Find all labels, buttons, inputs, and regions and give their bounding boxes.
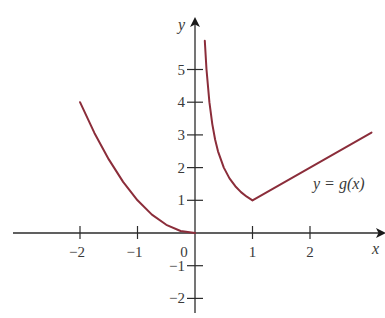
y-tick-label: −1 — [169, 258, 185, 274]
y-tick-label: 3 — [178, 127, 186, 143]
y-tick-label: −2 — [169, 290, 185, 306]
y-ticks: −2−112345 — [169, 62, 203, 307]
x-tick-label: 2 — [306, 244, 314, 260]
x-tick-label: 1 — [249, 244, 257, 260]
x-tick-label: −2 — [69, 244, 85, 260]
y-tick-label: 1 — [178, 192, 186, 208]
x-ticks: −2−1012 — [69, 226, 314, 260]
y-tick-label: 5 — [178, 62, 186, 78]
y-axis-label: y — [176, 16, 186, 34]
y-tick-label: 2 — [178, 160, 186, 176]
curves — [80, 41, 372, 233]
x-tick-label: −1 — [127, 244, 143, 260]
x-axis-label: x — [371, 240, 379, 257]
function-label: y = g(x) — [311, 175, 365, 193]
y-tick-label: 4 — [178, 94, 186, 110]
middle-branch-curve — [205, 41, 253, 201]
function-graph: x y −2−1012 −2−112345 y = g(x) — [0, 0, 385, 318]
